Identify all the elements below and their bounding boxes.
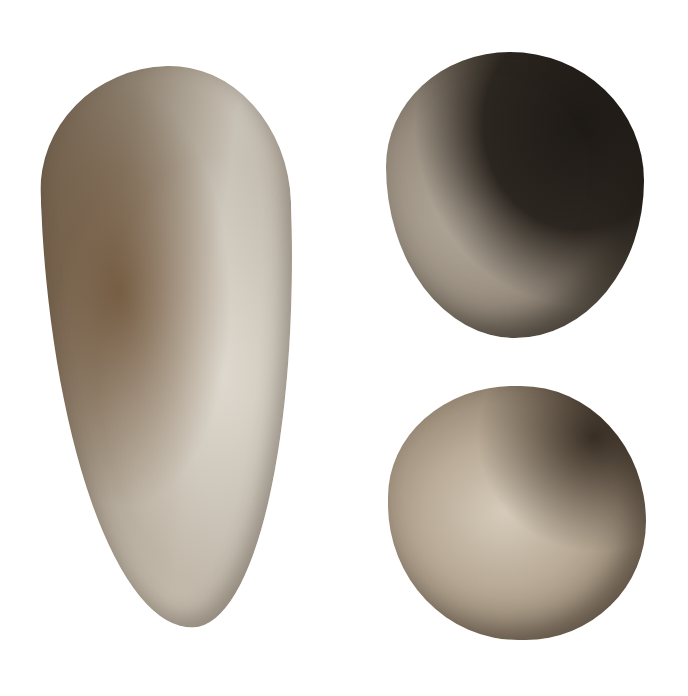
spheroid-stone-bottom — [388, 386, 646, 640]
spheroid-stone-top — [386, 52, 644, 338]
handaxe-stone — [36, 62, 305, 632]
